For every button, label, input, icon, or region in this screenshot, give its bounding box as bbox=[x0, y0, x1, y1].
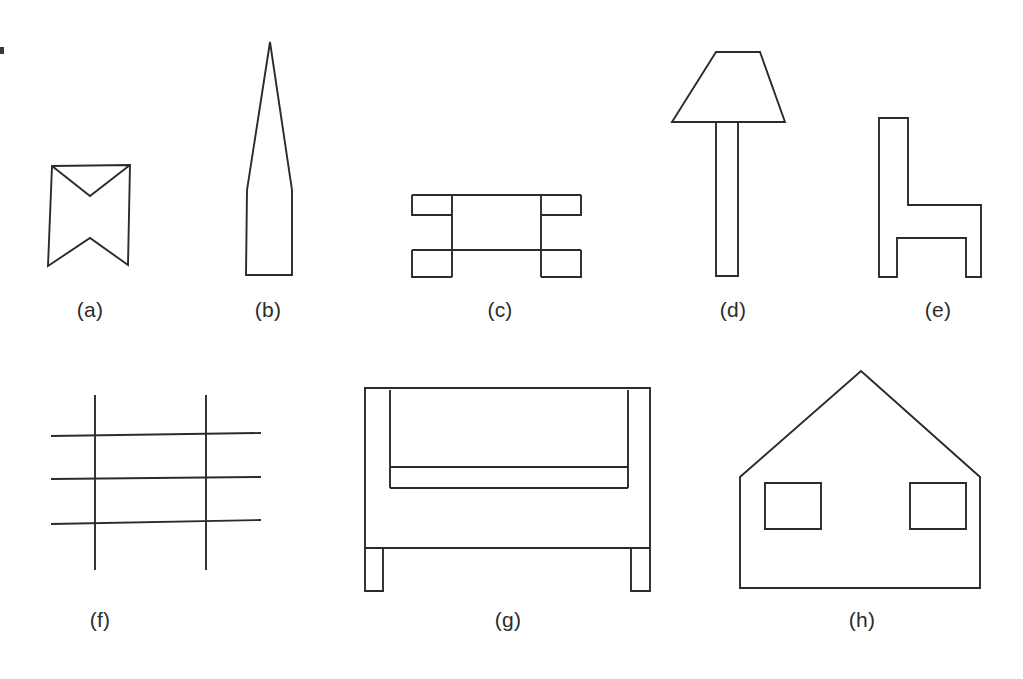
shape-g-sofa bbox=[365, 388, 650, 591]
house-outline bbox=[740, 371, 980, 588]
caption-h: (h) bbox=[849, 608, 875, 632]
lamp-post bbox=[716, 122, 738, 276]
sofa-body bbox=[365, 388, 650, 548]
caption-e: (e) bbox=[925, 298, 951, 322]
house-window-left bbox=[765, 483, 821, 529]
caption-b: (b) bbox=[255, 298, 281, 322]
shape-d-lamp bbox=[672, 52, 785, 276]
shape-f-grid bbox=[51, 395, 261, 570]
shape-c-table bbox=[412, 195, 581, 277]
caption-f: (f) bbox=[90, 608, 110, 632]
shape-b-spike bbox=[246, 42, 292, 275]
caption-c: (c) bbox=[487, 298, 512, 322]
house-window-right bbox=[910, 483, 966, 529]
caption-g: (g) bbox=[495, 608, 521, 632]
shape-e-chair bbox=[879, 118, 981, 277]
table-top-left-bracket bbox=[412, 195, 452, 215]
line-drawings-canvas bbox=[0, 0, 1023, 679]
sofa-left-leg bbox=[365, 548, 383, 591]
shape-a-bowtie bbox=[48, 165, 130, 266]
caption-a: (a) bbox=[77, 298, 103, 322]
sofa-right-leg bbox=[631, 548, 650, 591]
grid-horizontal-3 bbox=[51, 520, 261, 524]
table-bottom-left-bracket bbox=[412, 250, 452, 277]
bowtie-outline bbox=[48, 165, 130, 266]
table-bottom-right-bracket bbox=[541, 250, 581, 277]
chair-outline bbox=[879, 118, 981, 277]
shape-h-house bbox=[740, 371, 980, 588]
table-top-right-bracket bbox=[541, 195, 581, 215]
caption-d: (d) bbox=[720, 298, 746, 322]
grid-horizontal-1 bbox=[51, 433, 261, 436]
spike-outline bbox=[246, 42, 292, 275]
grid-horizontal-2 bbox=[51, 477, 261, 479]
lamp-shade bbox=[672, 52, 785, 122]
figure-panel: (a) (b) (c) (d) (e) (f) (g) (h) bbox=[0, 0, 1023, 679]
